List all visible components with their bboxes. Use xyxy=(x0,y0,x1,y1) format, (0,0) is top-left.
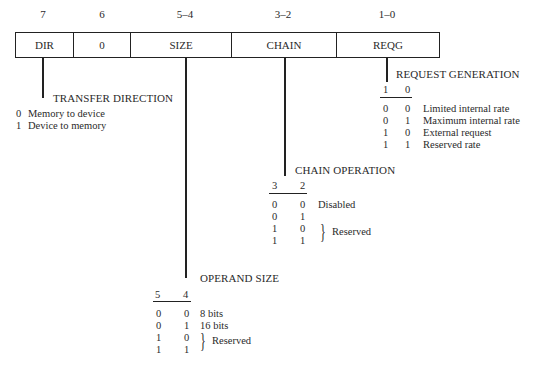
leader-dir xyxy=(42,58,44,98)
header-bit-2: 2 xyxy=(300,180,305,191)
header-rule xyxy=(269,193,307,194)
leader-size xyxy=(185,58,187,278)
header-bit-4: 4 xyxy=(183,289,188,300)
brace-icon: } xyxy=(200,329,206,351)
bit-label-1-0: 1–0 xyxy=(372,8,402,20)
bit-label-5-4: 5–4 xyxy=(170,8,200,20)
field-chain: CHAIN xyxy=(232,33,337,57)
header-bit-5: 5 xyxy=(155,289,160,300)
header-rule xyxy=(153,301,191,302)
bit-label-7: 7 xyxy=(34,8,52,20)
field-zero: 0 xyxy=(74,33,131,57)
field-size: SIZE xyxy=(131,33,232,57)
chain-reserved-label: Reserved xyxy=(332,226,371,237)
request-generation-title: REQUEST GENERATION xyxy=(396,68,520,80)
bit-label-3-2: 3–2 xyxy=(268,8,298,20)
header-bit-1: 1 xyxy=(383,84,388,95)
operand-reserved-label: Reserved xyxy=(212,335,251,346)
transfer-direction-title: TRANSFER DIRECTION xyxy=(53,92,173,104)
bit-label-6: 6 xyxy=(93,8,111,20)
leader-reqg xyxy=(386,58,388,82)
header-bit-0: 0 xyxy=(405,84,410,95)
operand-size-title: OPERAND SIZE xyxy=(200,272,279,284)
header-bit-3: 3 xyxy=(272,180,277,191)
header-rule xyxy=(380,97,412,98)
field-reqg: REQG xyxy=(337,33,439,57)
brace-icon: } xyxy=(320,220,326,242)
field-dir: DIR xyxy=(16,33,74,57)
register-box: DIR 0 SIZE CHAIN REQG xyxy=(15,32,440,58)
leader-chain xyxy=(284,58,286,176)
chain-operation-title: CHAIN OPERATION xyxy=(295,164,395,176)
